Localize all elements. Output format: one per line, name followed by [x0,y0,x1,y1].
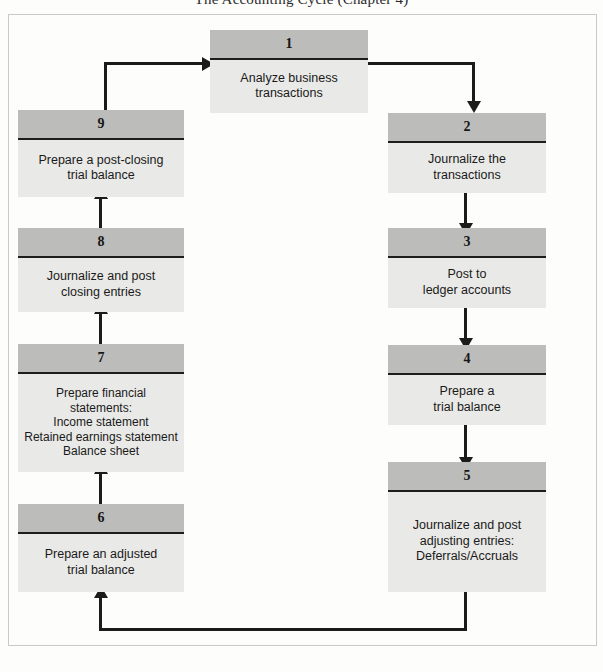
process-node-9-number: 9 [18,110,184,140]
connector-1-to-2-vertical [472,62,475,104]
page-frame-top-rule [8,14,597,15]
process-node-2-line-2: transactions [433,168,500,184]
process-node-4-label: Prepare a trial balance [388,375,546,425]
process-node-7-line-1: Prepare financial [56,386,146,401]
process-node-8[interactable]: 8 Journalize and post closing entries [18,228,184,312]
process-node-2-number: 2 [388,113,546,143]
process-node-3[interactable]: 3 Post to ledger accounts [388,228,546,308]
process-node-9-label: Prepare a post-closing trial balance [18,140,184,197]
process-node-4[interactable]: 4 Prepare a trial balance [388,345,546,425]
process-node-3-line-2: ledger accounts [423,283,511,299]
connector-4-to-5-vertical [464,425,467,461]
process-node-9[interactable]: 9 Prepare a post-closing trial balance [18,110,184,197]
connector-7-to-8-vertical [99,312,102,344]
connector-5-to-6-vertical-left [99,597,102,631]
process-node-9-line-2: trial balance [67,168,134,184]
process-node-2-label: Journalize the transactions [388,143,546,193]
process-node-5-number: 5 [388,462,546,492]
process-node-6-label: Prepare an adjusted trial balance [18,534,184,592]
process-node-5-line-1: Journalize and post [413,518,521,534]
process-node-5-line-2: adjusting entries: [420,534,515,550]
process-node-2[interactable]: 2 Journalize the transactions [388,113,546,193]
process-node-4-line-2: trial balance [433,400,500,416]
arrowhead-1-to-2 [467,101,481,113]
process-node-7-label: Prepare financial statements: Income sta… [18,374,184,472]
process-node-4-number: 4 [388,345,546,375]
process-node-3-number: 3 [388,228,546,258]
diagram-page: The Accounting Cycle (Chapter 4) 1 Analy… [0,0,603,672]
process-node-3-label: Post to ledger accounts [388,258,546,308]
connector-2-to-3-vertical [464,193,467,227]
process-node-6-line-1: Prepare an adjusted [45,547,158,563]
page-frame-right-rule [596,14,597,646]
connector-6-to-7-vertical [99,472,102,504]
process-node-1-line-1: Analyze business [240,71,337,87]
connector-9-to-1-horizontal [104,62,210,65]
process-node-1[interactable]: 1 Analyze business transactions [210,30,368,113]
process-node-1-number: 1 [210,30,368,60]
process-node-8-line-1: Journalize and post [47,269,155,285]
connector-5-to-6-horizontal [99,628,467,631]
process-node-7-line-5: Balance sheet [63,444,139,459]
process-node-7[interactable]: 7 Prepare financial statements: Income s… [18,344,184,472]
process-node-1-line-2: transactions [255,86,322,102]
process-node-7-line-2: statements: [70,401,132,416]
process-node-1-label: Analyze business transactions [210,60,368,113]
process-node-3-line-1: Post to [448,267,487,283]
process-node-6-line-2: trial balance [67,563,134,579]
page-header-caption: The Accounting Cycle (Chapter 4) [0,0,603,9]
page-frame-bottom-rule [8,645,597,646]
connector-9-to-1-vertical [104,62,107,110]
process-node-5-label: Journalize and post adjusting entries: D… [388,492,546,592]
connector-3-to-4-vertical [464,308,467,342]
process-node-9-line-1: Prepare a post-closing [38,153,163,169]
process-node-5-line-3: Deferrals/Accruals [416,549,518,565]
process-node-4-line-1: Prepare a [440,384,495,400]
process-node-7-line-4: Retained earnings statement [24,430,177,445]
page-frame-left-rule [8,14,9,646]
process-node-6[interactable]: 6 Prepare an adjusted trial balance [18,504,184,592]
process-node-7-number: 7 [18,344,184,374]
process-node-2-line-1: Journalize the [428,152,506,168]
process-node-5[interactable]: 5 Journalize and post adjusting entries:… [388,462,546,592]
process-node-8-line-2: closing entries [61,285,141,301]
process-node-8-number: 8 [18,228,184,258]
process-node-7-line-3: Income statement [53,415,148,430]
connector-5-to-6-vertical-right [464,592,467,631]
process-node-6-number: 6 [18,504,184,534]
process-node-8-label: Journalize and post closing entries [18,258,184,312]
connector-8-to-9-vertical [99,197,102,228]
connector-1-to-2-horizontal [368,62,475,65]
